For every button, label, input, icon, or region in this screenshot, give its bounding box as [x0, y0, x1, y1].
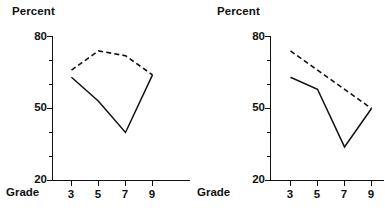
series-line-solid-left — [72, 75, 153, 133]
x-ticks-left — [72, 181, 153, 186]
series-line-dashed-left — [72, 51, 153, 75]
series-line-dashed-right — [291, 51, 372, 109]
y-major-ticks-right — [265, 37, 271, 181]
two-panel-line-chart-figure: Percent Grade 80 50 20 3 5 7 9 — [0, 0, 385, 213]
x-ticks-right — [291, 181, 372, 186]
plot-area-left — [0, 0, 192, 213]
chart-panel-right: Percent Grade 80 50 20 3 5 7 9 — [192, 0, 385, 213]
chart-panel-left: Percent Grade 80 50 20 3 5 7 9 — [0, 0, 192, 213]
plot-area-right — [192, 0, 385, 213]
axis-lines-left — [53, 37, 191, 181]
series-line-solid-right — [291, 77, 372, 147]
y-major-ticks-left — [47, 37, 53, 181]
